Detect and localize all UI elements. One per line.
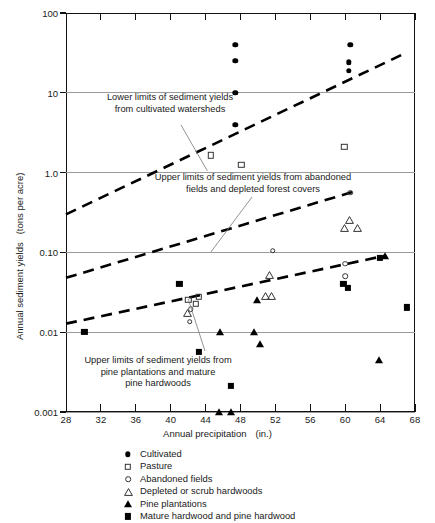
data-point-pine-plantations xyxy=(253,296,261,303)
x-tick-label-60: 60 xyxy=(340,414,351,425)
data-point-mature-hardwood-and-pine-hardwood xyxy=(345,285,351,291)
x-tick-top-60 xyxy=(345,13,346,20)
data-point-pine-plantations xyxy=(227,408,235,415)
x-tick-48 xyxy=(240,404,241,412)
data-point-cultivated xyxy=(348,42,353,47)
x-tick-56 xyxy=(310,404,311,412)
x-tick-top-40 xyxy=(170,13,171,20)
data-point-cultivated xyxy=(233,58,238,63)
legend-marker-filled-square xyxy=(125,513,131,519)
x-tick-label-56: 56 xyxy=(305,414,316,425)
legend-item-2: Abandoned fields xyxy=(0,473,435,485)
data-point-mature-hardwood-and-pine-hardwood xyxy=(377,255,383,261)
data-point-abandoned-fields xyxy=(342,261,348,267)
legend-item-3: Depleted or scrub hardwoods xyxy=(0,485,435,497)
y-tick-label-0.001: 0.001 xyxy=(22,407,58,418)
data-point-cultivated xyxy=(346,60,351,65)
legend-label: Pasture xyxy=(140,460,172,471)
y-axis-line xyxy=(66,13,67,412)
y-axis-units: (tons per acre) xyxy=(14,173,25,235)
y-axis-title: Annual sediment yields(tons per acre) xyxy=(14,173,25,340)
legend-marker-filled-circle xyxy=(125,452,130,457)
x-tick-60 xyxy=(345,404,346,412)
y-tick-10 xyxy=(60,92,66,93)
x-tick-top-56 xyxy=(310,13,311,20)
x-tick-52 xyxy=(275,404,276,412)
y-tick-label-100: 100 xyxy=(22,8,58,19)
x-tick-label-36: 36 xyxy=(130,414,141,425)
data-point-pine-plantations xyxy=(256,340,264,347)
annotation-cultivated-limits: Lower limits of sediment yields from cul… xyxy=(72,92,268,115)
x-tick-label-40: 40 xyxy=(165,414,176,425)
trend-line-1 xyxy=(66,192,352,278)
data-point-cultivated xyxy=(233,42,238,47)
x-tick-36 xyxy=(135,404,136,412)
legend-label: Mature hardwood and pine hardwood xyxy=(140,510,295,521)
data-point-pasture xyxy=(185,297,191,303)
data-point-pine-plantations xyxy=(216,328,224,335)
data-point-pine-plantations xyxy=(250,328,258,335)
x-tick-68 xyxy=(415,404,416,412)
plot-right-border xyxy=(414,13,415,412)
y-tick-0.10 xyxy=(60,252,66,253)
sediment-yield-scatter-chart: 100101.00.100.010.001 283236404448525660… xyxy=(0,0,435,445)
gridline-y-0.01 xyxy=(66,332,415,333)
data-point-cultivated xyxy=(346,68,351,73)
data-point-mature-hardwood-and-pine-hardwood xyxy=(196,349,202,355)
legend-marker-filled-triangle xyxy=(124,500,132,507)
gridline-y-0.10 xyxy=(66,252,415,253)
data-point-mature-hardwood-and-pine-hardwood xyxy=(176,281,182,287)
data-point-pasture xyxy=(208,152,214,158)
annotation-pine-limits: Upper limits of sediment yields from pin… xyxy=(56,355,260,390)
x-tick-top-32 xyxy=(100,13,101,20)
chart-legend: CultivatedPastureAbandoned fieldsDeplete… xyxy=(0,448,435,522)
x-tick-top-36 xyxy=(135,13,136,20)
y-tick-1.0 xyxy=(60,172,66,173)
legend-marker-open-square xyxy=(125,464,131,470)
legend-label: Pine plantations xyxy=(140,498,207,509)
data-point-pine-plantations xyxy=(215,408,223,415)
x-tick-40 xyxy=(170,404,171,412)
x-tick-top-64 xyxy=(380,13,381,20)
y-tick-label-0.01: 0.01 xyxy=(22,327,58,338)
data-point-pasture xyxy=(238,162,244,168)
x-tick-label-68: 68 xyxy=(410,414,421,425)
y-tick-0.01 xyxy=(60,332,66,333)
x-axis-title-text: Annual precipitation xyxy=(163,428,246,439)
leader-line-anno-abandoned xyxy=(211,197,252,252)
x-tick-top-44 xyxy=(205,13,206,20)
y-tick-label-0.10: 0.10 xyxy=(22,247,58,258)
x-axis-units: (in.) xyxy=(256,428,272,439)
data-point-cultivated xyxy=(233,122,238,127)
legend-item-5: Mature hardwood and pine hardwood xyxy=(0,510,435,522)
legend-label: Abandoned fields xyxy=(140,473,212,484)
x-tick-64 xyxy=(380,404,381,412)
x-tick-label-52: 52 xyxy=(270,414,281,425)
data-point-mature-hardwood-and-pine-hardwood xyxy=(81,328,87,334)
legend-item-4: Pine plantations xyxy=(0,498,435,510)
x-tick-top-28 xyxy=(66,13,67,20)
x-tick-44 xyxy=(205,404,206,412)
x-tick-top-52 xyxy=(275,13,276,20)
y-tick-label-10: 10 xyxy=(22,87,58,98)
annotation-abandoned-limits: Upper limits of sediment yields from aba… xyxy=(128,172,378,195)
data-point-pasture xyxy=(341,144,347,150)
legend-label: Cultivated xyxy=(140,448,182,459)
x-tick-label-28: 28 xyxy=(61,414,72,425)
legend-marker-open-circle xyxy=(125,476,131,482)
x-axis-title: Annual precipitation(in.) xyxy=(0,428,435,439)
x-tick-label-48: 48 xyxy=(235,414,246,425)
x-tick-top-48 xyxy=(240,13,241,20)
data-point-abandoned-fields xyxy=(342,274,348,280)
x-tick-label-64: 64 xyxy=(375,414,386,425)
legend-label: Depleted or scrub hardwoods xyxy=(140,485,262,496)
legend-item-0: Cultivated xyxy=(0,448,435,460)
data-point-pasture xyxy=(195,293,201,299)
data-point-pine-plantations xyxy=(375,356,383,363)
y-axis-title-text: Annual sediment yields xyxy=(14,242,25,340)
data-point-pasture xyxy=(193,301,199,307)
x-tick-top-68 xyxy=(415,13,416,20)
trend-line-2 xyxy=(66,256,385,324)
x-tick-32 xyxy=(100,404,101,412)
x-tick-label-32: 32 xyxy=(96,414,107,425)
